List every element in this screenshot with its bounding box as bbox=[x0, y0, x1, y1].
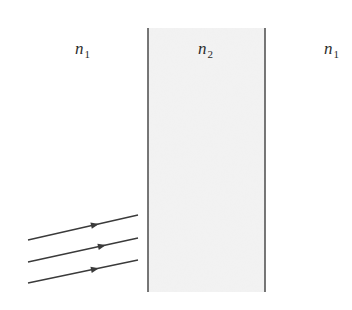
ray-1 bbox=[28, 215, 138, 240]
arrowhead-icon bbox=[97, 244, 105, 250]
ray-3 bbox=[28, 260, 138, 283]
arrowhead-icon bbox=[90, 267, 98, 273]
label-right-medium: n1 bbox=[324, 40, 339, 57]
label-slab: n2 bbox=[198, 40, 213, 57]
ray-2 bbox=[28, 238, 138, 262]
slab bbox=[148, 28, 265, 292]
incident-rays bbox=[28, 215, 138, 283]
ray-line bbox=[28, 238, 138, 262]
slab-diagram bbox=[0, 0, 352, 310]
label-left-medium: n1 bbox=[75, 40, 90, 57]
arrowhead-icon bbox=[90, 223, 99, 229]
ray-line bbox=[28, 215, 138, 240]
slab-texture bbox=[148, 28, 265, 292]
ray-line bbox=[28, 260, 138, 283]
